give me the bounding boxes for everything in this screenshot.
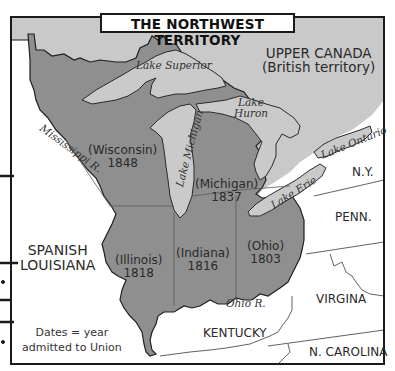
label-penn: PENN. xyxy=(335,211,372,224)
upper-canada-line1: UPPER CANADA xyxy=(262,46,375,60)
legend-line1: Dates = year xyxy=(22,326,122,341)
label-ohio: (Ohio) 1803 xyxy=(247,240,284,265)
label-upper-canada: UPPER CANADA (British territory) xyxy=(262,46,375,74)
state-name: (Wisconsin) xyxy=(88,144,157,157)
state-year: 1803 xyxy=(247,253,284,266)
map-title: THE NORTHWEST TERRITORY xyxy=(102,16,293,48)
legend-line2: admitted to Union xyxy=(22,341,122,356)
spanish-louisiana-line1: SPANISH xyxy=(20,243,95,258)
label-lake-huron: Lake Huron xyxy=(234,97,268,119)
label-illinois: (Illinois) 1818 xyxy=(115,254,162,279)
state-name: (Michigan) xyxy=(195,178,258,191)
spanish-louisiana-line2: LOUISIANA xyxy=(20,258,95,273)
lake-huron-line2: Huron xyxy=(234,108,268,119)
label-michigan: (Michigan) 1837 xyxy=(195,178,258,203)
label-kentucky: KENTUCKY xyxy=(203,327,267,340)
label-n-carolina: N. CAROLINA xyxy=(309,346,387,359)
map-title-box: THE NORTHWEST TERRITORY xyxy=(100,13,295,33)
label-spanish-louisiana: SPANISH LOUISIANA xyxy=(20,243,95,272)
upper-canada-line2: (British territory) xyxy=(262,60,375,74)
state-year: 1818 xyxy=(115,267,162,280)
label-ohio-river: Ohio R. xyxy=(226,298,266,309)
label-ny: N.Y. xyxy=(352,166,374,179)
label-lake-superior: Lake Superior xyxy=(136,60,212,71)
state-name: (Ohio) xyxy=(247,240,284,253)
state-year: 1837 xyxy=(195,191,258,204)
state-year: 1816 xyxy=(176,260,230,273)
label-indiana: (Indiana) 1816 xyxy=(176,247,230,272)
map-legend: Dates = year admitted to Union xyxy=(22,326,122,356)
state-name: (Illinois) xyxy=(115,254,162,267)
state-name: (Indiana) xyxy=(176,247,230,260)
label-virgina: VIRGINA xyxy=(316,293,366,306)
